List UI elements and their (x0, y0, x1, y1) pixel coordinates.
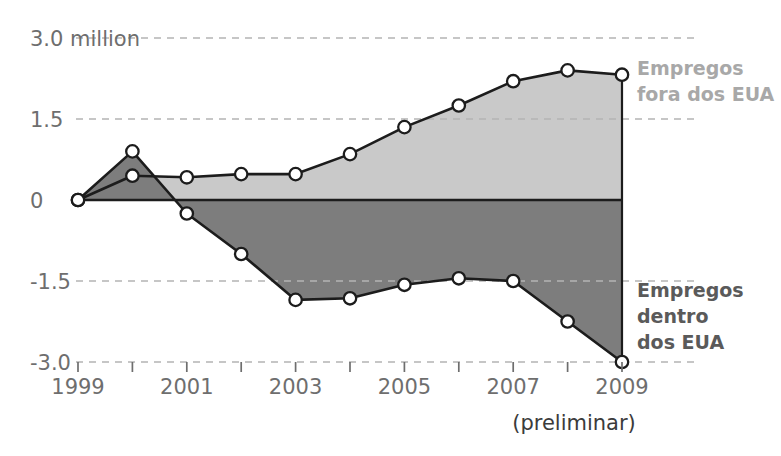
data-point-marker (561, 64, 573, 76)
data-point-marker (507, 75, 519, 87)
legend-inside-line-3: dos EUA (637, 331, 724, 353)
data-point-marker (181, 171, 193, 183)
data-point-marker (126, 145, 138, 157)
data-point-marker (453, 272, 465, 284)
y-tick-label: 0 (30, 189, 43, 213)
preliminary-note: (preliminar) (512, 411, 636, 435)
y-tick-label: -1.5 (30, 270, 71, 294)
data-point-marker (289, 294, 301, 306)
x-tick-label: 2007 (486, 375, 539, 399)
chart-areas (78, 70, 622, 362)
y-tick-label: 3.0 million (30, 27, 140, 51)
y-tick-label: 1.5 (30, 108, 63, 132)
data-point-marker (344, 292, 356, 304)
data-point-marker (561, 315, 573, 327)
chart-container: 3.0 million1.50-1.5-3.0 1999200120032005… (0, 0, 781, 456)
legend-outside-line-2: fora dos EUA (637, 83, 775, 105)
employment-area-chart: 3.0 million1.50-1.5-3.0 1999200120032005… (0, 0, 781, 456)
data-point-marker (72, 194, 84, 206)
y-tick-label: -3.0 (30, 351, 71, 375)
data-point-marker (235, 248, 247, 260)
data-point-marker (616, 69, 628, 81)
x-axis-tick-labels: 199920012003200520072009 (51, 375, 648, 399)
legend-outside: Empregos fora dos EUA (637, 57, 775, 105)
x-tick-label: 2001 (160, 375, 213, 399)
legend-outside-line-1: Empregos (637, 57, 744, 79)
x-tick-label: 1999 (51, 375, 104, 399)
x-axis-tick-marks (78, 362, 622, 372)
data-point-marker (289, 168, 301, 180)
data-point-marker (507, 275, 519, 287)
data-point-marker (181, 207, 193, 219)
data-point-marker (126, 170, 138, 182)
data-point-marker (344, 148, 356, 160)
x-tick-label: 2003 (269, 375, 322, 399)
legend-inside-line-2: dentro (637, 305, 709, 327)
legend-inside: Empregos dentro dos EUA (637, 279, 744, 353)
x-tick-label: 2005 (378, 375, 431, 399)
data-point-marker (398, 121, 410, 133)
x-tick-label: 2009 (595, 375, 648, 399)
data-point-marker (398, 279, 410, 291)
data-point-marker (453, 99, 465, 111)
data-point-marker (235, 168, 247, 180)
legend-inside-line-1: Empregos (637, 279, 744, 301)
